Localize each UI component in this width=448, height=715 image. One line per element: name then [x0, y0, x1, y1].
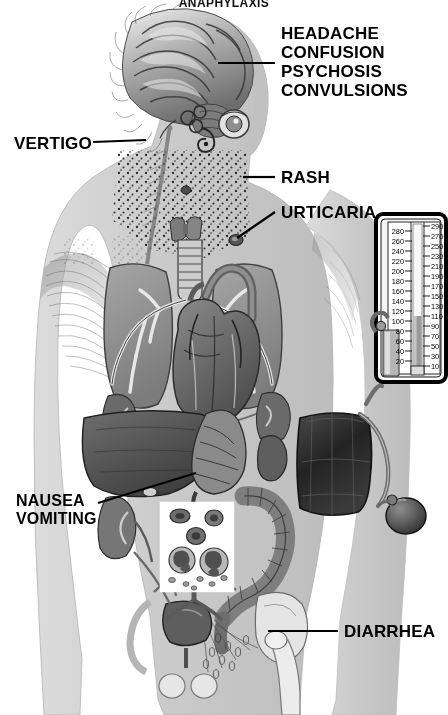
manometer-tick-right-270: 270 — [431, 232, 443, 241]
manometer-tick-right-130: 130 — [431, 302, 443, 311]
manometer-tick-right-50: 50 — [431, 342, 439, 351]
manometer-tick-right-250: 250 — [431, 242, 443, 251]
callout-label-diarrhea: DIARRHEA — [344, 622, 435, 641]
callout-line: PSYCHOSIS — [281, 62, 408, 81]
leader-vertigo — [93, 140, 146, 142]
mercury-sphygmomanometer: 28026024022020018016014012010080604020 2… — [372, 214, 446, 382]
manometer-tick-left-40: 40 — [396, 347, 404, 356]
manometer-tick-right-170: 170 — [431, 282, 443, 291]
callout-line: VERTIGO — [14, 134, 92, 153]
callout-line: CONFUSION — [281, 43, 408, 62]
manometer-tick-left-20: 20 — [396, 357, 404, 366]
callout-label-rash: RASH — [281, 168, 330, 187]
manometer-tick-left-80: 80 — [396, 327, 404, 336]
callout-label-vertigo: VERTIGO — [14, 134, 92, 153]
manometer-tick-left-120: 120 — [392, 307, 404, 316]
figure-title: ANAPHYLAXIS — [0, 0, 448, 10]
eye — [219, 110, 249, 138]
manometer-tick-right-70: 70 — [431, 332, 439, 341]
callout-label-cerebral: HEADACHECONFUSIONPSYCHOSISCONVULSIONS — [281, 24, 408, 100]
callout-line: NAUSEA — [16, 492, 97, 510]
illustration-canvas: ANAPHYLAXIS — [0, 0, 448, 715]
callout-line: VOMITING — [16, 510, 97, 528]
right-lung — [104, 264, 172, 408]
callout-line: RASH — [281, 168, 330, 187]
manometer-tick-left-220: 220 — [392, 257, 404, 266]
manometer-tick-left-180: 180 — [392, 277, 404, 286]
manometer-tick-left-260: 260 — [392, 237, 404, 246]
manometer-tick-right-30: 30 — [431, 352, 439, 361]
callout-line: URTICARIA — [281, 203, 376, 222]
manometer-tick-right-110: 110 — [431, 312, 443, 321]
trachea — [178, 240, 202, 300]
manometer-tick-right-290: 290 — [431, 222, 443, 231]
callout-line: CONVULSIONS — [281, 81, 408, 100]
manometer-tick-left-240: 240 — [392, 247, 404, 256]
manometer-tick-right-230: 230 — [431, 252, 443, 261]
manometer-tick-left-60: 60 — [396, 337, 404, 346]
callout-label-nausea-vomiting: NAUSEAVOMITING — [16, 492, 97, 528]
manometer-tick-right-150: 150 — [431, 292, 443, 301]
callout-line: DIARRHEA — [344, 622, 435, 641]
manometer-tick-left-140: 140 — [392, 297, 404, 306]
manometer-tick-left-200: 200 — [392, 267, 404, 276]
manometer-tick-left-100: 100 — [392, 317, 404, 326]
blood-pressure-cuff — [297, 412, 372, 516]
manometer-tick-left-280: 280 — [392, 227, 404, 236]
callout-label-urticaria: URTICARIA — [281, 203, 376, 222]
manometer-tick-right-210: 210 — [431, 262, 443, 271]
manometer-tick-right-190: 190 — [431, 272, 443, 281]
spleen — [258, 436, 287, 481]
manometer-tick-right-90: 90 — [431, 322, 439, 331]
callout-line: HEADACHE — [281, 24, 408, 43]
manometer-tick-left-160: 160 — [392, 287, 404, 296]
blood-smear-inset — [160, 502, 234, 592]
manometer-tick-right-10: 10 — [431, 362, 439, 371]
anaphylaxis-body-diagram: 28026024022020018016014012010080604020 2… — [0, 0, 448, 715]
